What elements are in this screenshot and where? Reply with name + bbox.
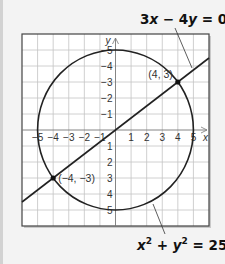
intersection-point xyxy=(51,175,56,180)
x-tick-label: 4 xyxy=(175,132,181,143)
grid xyxy=(22,34,211,228)
x-tick-label: −3 xyxy=(63,132,75,143)
intersection-point xyxy=(175,79,180,84)
y-tick-label: −1 xyxy=(101,109,113,120)
circle-equation-label: x2 + y2 = 25 xyxy=(136,236,225,253)
x-axis-label: x xyxy=(202,132,209,143)
y-tick-label: −3 xyxy=(101,77,113,88)
y-tick-label: 1 xyxy=(107,141,113,152)
y-tick-label: 2 xyxy=(107,157,113,168)
coordinate-figure: xy −5−4−3−2−11234554321−1−2−3−4−5 (4, 3)… xyxy=(0,0,225,264)
x-tick-label: −2 xyxy=(79,132,91,143)
x-tick-label: 1 xyxy=(128,132,134,143)
line-equation-label: 3x − 4y = 0 xyxy=(140,11,225,27)
x-tick-label: 3 xyxy=(159,132,165,143)
point-label: (−4, −3) xyxy=(58,172,95,184)
point-label: (4, 3) xyxy=(148,68,173,80)
x-tick-label: 2 xyxy=(144,132,150,143)
x-tick-label: −4 xyxy=(47,132,59,143)
y-tick-label: 4 xyxy=(107,189,113,200)
y-tick-label: 3 xyxy=(107,173,113,184)
y-tick-label: −2 xyxy=(101,93,113,104)
y-tick-label: −4 xyxy=(101,61,113,72)
